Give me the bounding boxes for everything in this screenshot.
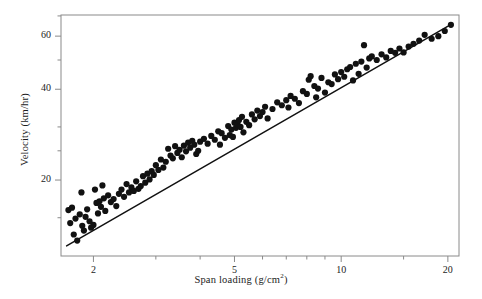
data-point [279,102,285,108]
data-point [84,206,90,212]
data-point [442,28,448,34]
data-point [315,85,321,91]
data-point [239,114,245,120]
data-point [69,205,75,211]
data-point [374,57,380,63]
data-points [65,22,454,244]
data-point [364,64,370,70]
data-point [269,106,275,112]
data-point [329,81,335,87]
data-point [296,100,302,106]
data-point [230,134,236,140]
x-tick-label: 20 [428,264,468,275]
data-point [259,109,265,115]
data-point [335,76,341,82]
data-point [410,41,416,47]
data-point [90,222,96,228]
data-point [118,186,124,192]
data-point [113,203,119,209]
y-tick-label: 20 [19,173,51,184]
data-point [429,36,435,42]
data-point [195,148,201,154]
data-point [179,154,185,160]
data-point [240,129,246,135]
data-point [347,64,353,70]
data-point [74,237,80,243]
data-point [201,136,207,142]
data-point [361,42,367,48]
y-tick-label: 40 [19,82,51,93]
data-point [252,116,258,122]
data-point [102,208,108,214]
data-point [81,227,87,233]
y-tick-label: 60 [19,29,51,40]
data-point [264,115,270,121]
data-point [133,178,139,184]
scatter-plot-figure: Span loading (g/cm2) Velocity (km/hr) 25… [0,0,482,299]
x-tick-label: 10 [321,264,361,275]
data-point [78,189,84,195]
x-tick-label: 5 [214,264,254,275]
data-point [318,75,324,81]
plot-canvas [0,0,482,299]
data-point [254,107,260,113]
regression-line [67,24,453,246]
data-point [237,124,243,130]
data-point [111,196,117,202]
data-point [246,122,252,128]
data-point [95,210,101,216]
data-point [151,172,157,178]
data-point [358,58,364,64]
data-point [217,142,223,148]
data-point [341,74,347,80]
data-point [285,104,291,110]
x-axis-title-tail: ) [284,274,288,285]
data-point [448,22,454,28]
data-point [322,89,328,95]
data-point [77,211,83,217]
data-point [369,53,375,59]
data-point [416,37,422,43]
data-point [99,182,105,188]
data-point [105,192,111,198]
data-point [422,32,428,38]
data-point [313,94,319,100]
data-point [350,77,356,83]
data-point [400,49,406,55]
data-point [308,73,314,79]
data-point [353,61,359,67]
data-point [435,33,441,39]
data-point [165,146,171,152]
data-point [121,194,127,200]
x-axis-title-base: Span loading (g/cm [194,274,280,285]
data-point [160,164,166,170]
data-point [304,91,310,97]
x-tick-label: 2 [73,264,113,275]
data-point [205,141,211,147]
data-point [383,54,389,60]
data-point [67,220,73,226]
data-point [191,142,197,148]
data-point [170,155,176,161]
data-point [212,137,218,143]
data-point [163,159,169,165]
data-point [71,231,77,237]
data-point [356,71,362,77]
data-point [92,186,98,192]
data-point [262,104,268,110]
